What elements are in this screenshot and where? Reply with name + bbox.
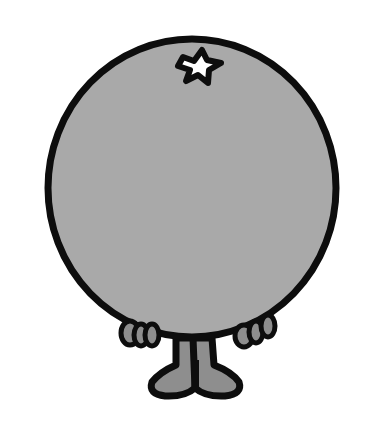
left-foot [151, 338, 196, 396]
character-illustration [0, 0, 374, 433]
body [48, 39, 336, 337]
legs [151, 338, 239, 396]
left-hand [121, 321, 159, 346]
right-foot [193, 338, 240, 396]
illustration-canvas: Round gray cartoon character with star m… [0, 0, 374, 433]
